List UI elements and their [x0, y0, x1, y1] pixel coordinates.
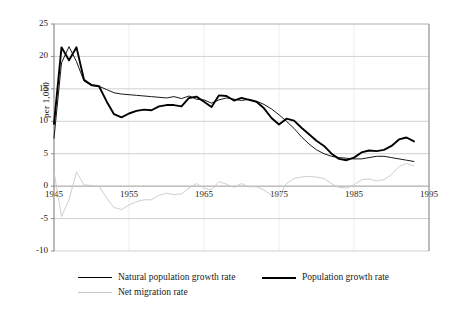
series-line: [54, 47, 414, 160]
chart-container: per 1,000 2520151050-5-10 19451955196519…: [0, 0, 455, 310]
series-line: [54, 163, 414, 216]
plot-area: [0, 0, 455, 310]
